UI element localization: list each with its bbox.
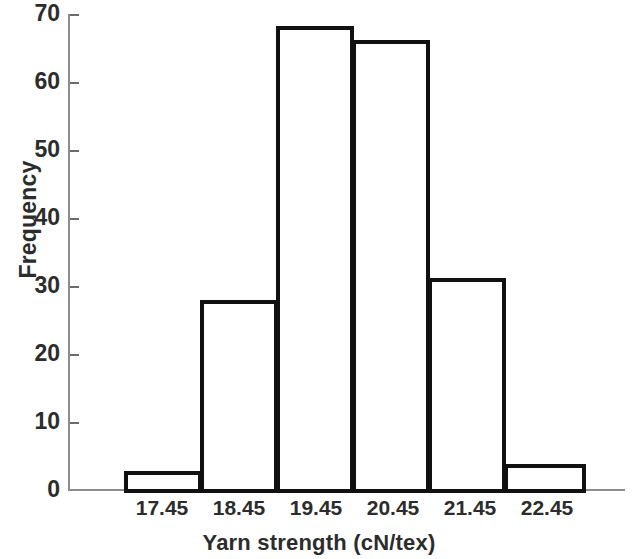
- x-axis-title: Yarn strength (cN/tex): [0, 530, 638, 556]
- bar-19-45: [276, 26, 354, 493]
- bar-21-45: [428, 278, 506, 493]
- bar-17-45: [124, 471, 202, 493]
- plot-area: [0, 0, 638, 559]
- bar-18-45: [200, 300, 278, 493]
- histogram-figure: Frequency 70 60 50 40 30 20 10 0: [0, 0, 638, 559]
- bar-22-45: [504, 464, 586, 493]
- bar-20-45: [352, 40, 430, 493]
- x-tick-label-22-45: 22.45: [492, 497, 602, 518]
